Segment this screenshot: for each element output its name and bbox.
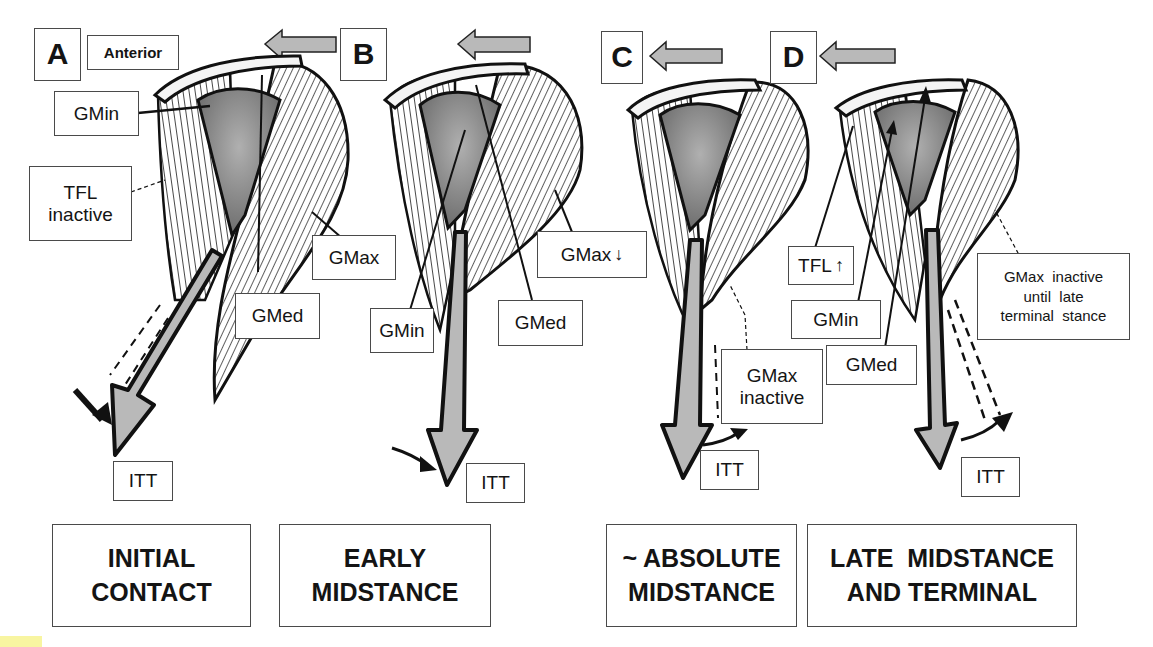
phase-line: EARLY (344, 542, 426, 576)
inactive-label-line: inactive (740, 387, 804, 409)
panel-d-gmax-inactive-label: GMax inactive until late terminal stance (977, 253, 1130, 340)
panel-b-gmin-label: GMin (370, 308, 434, 353)
panel-d-itt-label: ITT (961, 457, 1020, 497)
phase-line: MIDSTANCE (628, 576, 775, 610)
gmax-label-line: GMax inactive (1004, 267, 1103, 287)
panel-a-tfl-inactive-label: TFL inactive (29, 166, 132, 241)
phase-line: INITIAL (108, 542, 196, 576)
panel-d-gmin-label: GMin (791, 300, 881, 339)
anterior-label: Anterior (87, 35, 179, 70)
highlight-artifact (0, 636, 42, 647)
tfl-text: TFL (798, 255, 832, 277)
phase-absolute-midstance: ~ ABSOLUTE MIDSTANCE (606, 524, 797, 627)
phase-line: LATE MIDSTANCE (830, 542, 1054, 576)
anterior-arrow-icon (458, 30, 530, 59)
until-late-label-line: until late (1023, 287, 1083, 307)
phase-line: AND TERMINAL (847, 576, 1037, 610)
rotation-arrow-icon (75, 390, 112, 425)
gmax-text: GMax (561, 244, 612, 266)
terminal-stance-label-line: terminal stance (1001, 306, 1107, 326)
gmax-label-line: GMax (747, 365, 798, 387)
panel-c-gmax-inactive-label: GMax inactive (721, 349, 823, 424)
panel-d-letter: D (770, 31, 817, 84)
phase-line: MIDSTANCE (312, 576, 459, 610)
panel-b-letter: B (340, 28, 387, 81)
panel-b-gmed-label: GMed (498, 300, 583, 346)
increase-arrow-icon: ↑ (835, 255, 844, 276)
anterior-arrow-icon (650, 42, 722, 70)
panel-a-letter: A (34, 28, 81, 81)
phase-late-midstance-terminal: LATE MIDSTANCE AND TERMINAL (807, 524, 1077, 627)
panel-b-itt-label: ITT (466, 463, 525, 503)
tfl-label-line: TFL (64, 182, 98, 204)
panel-c-letter: C (601, 31, 643, 84)
panel-a-gmin-label: GMin (54, 91, 139, 136)
anterior-arrow-icon (820, 42, 895, 70)
inactive-label-line: inactive (48, 204, 112, 226)
panel-d-tfl-increased-label: TFL ↑ (788, 246, 854, 285)
decrease-arrow-icon: ↓ (614, 244, 623, 265)
itt-force-arrow-icon (112, 250, 222, 455)
rotation-arrow-icon (392, 448, 437, 472)
panel-a-gmax-label: GMax (312, 235, 396, 280)
rotation-arrow-icon (961, 412, 1013, 440)
phase-early-midstance: EARLY MIDSTANCE (279, 524, 491, 627)
panel-a-gmed-label: GMed (235, 293, 320, 339)
panel-c-itt-label: ITT (700, 450, 759, 490)
phase-line: ~ ABSOLUTE (622, 542, 780, 576)
figure: A Anterior GMin TFL inactive GMax GMed I… (0, 0, 1153, 647)
panel-d-gmed-label: GMed (826, 345, 917, 385)
phase-line: CONTACT (91, 576, 211, 610)
panel-a-itt-label: ITT (113, 461, 173, 501)
panel-b-gmax-decreased-label: GMax ↓ (537, 231, 647, 278)
phase-initial-contact: INITIAL CONTACT (52, 524, 251, 627)
